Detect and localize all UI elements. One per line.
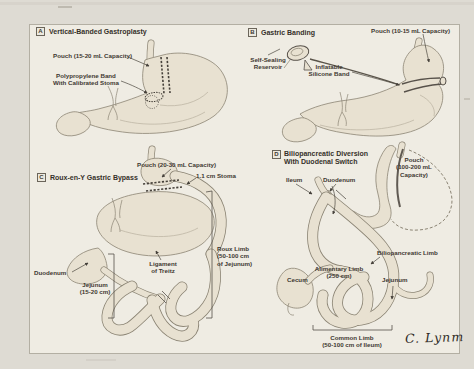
- duodenum-c: [67, 248, 107, 284]
- panel-d-tag: D: [272, 150, 281, 159]
- label-pouch-b: Pouch (10-15 mL Capacity): [371, 27, 450, 34]
- label-alimentary-limb: Alimentary Limb (250 cm): [310, 265, 368, 280]
- panel-c-title: Roux-en-Y Gastric Bypass: [50, 174, 138, 182]
- label-duodenum-c: Duodenum: [34, 269, 66, 276]
- stomach-b: [300, 45, 444, 136]
- panel-c-tag: C: [37, 173, 46, 182]
- label-biliopancreatic-limb: Biliopancreatic Limb: [377, 249, 438, 256]
- label-pouch-a: Pouch (15-20 mL Capacity): [53, 52, 132, 59]
- duodenum-a: [56, 112, 90, 136]
- label-duodenum-d: Duodenum: [323, 176, 355, 183]
- panel-b-title: Gastric Banding: [261, 29, 315, 37]
- panel-d-title: Biliopancreatic Diversion With Duodenal …: [284, 150, 368, 166]
- label-common-limb: Common Limb (50-100 cm of Ileum): [306, 334, 398, 349]
- panel-b-illustration: [268, 34, 446, 142]
- label-cecum-d: Cecum: [287, 276, 308, 283]
- cecum-d: [277, 268, 313, 308]
- panel-a-title: Vertical-Banded Gastroplasty: [49, 28, 147, 36]
- label-band-b: Inflatable Silicone Band: [306, 63, 352, 78]
- label-pouch-d: Pouch (100-200 mL Capacity): [390, 156, 438, 178]
- panel-b-tag: B: [248, 28, 257, 37]
- artist-signature: C. Lynm: [405, 329, 465, 346]
- label-ileum-d: Ileum: [286, 176, 302, 183]
- label-pouch-c: Pouch (20-30 mL Capacity): [137, 161, 216, 168]
- label-jejunum-d: Jejunum: [382, 276, 407, 283]
- panel-a-tag: A: [36, 27, 45, 36]
- label-reservoir-b: Self-Sealing Reservoir: [246, 56, 290, 71]
- label-ligament-of-treitz: Ligament of Treitz: [146, 260, 180, 275]
- duodenum-b: [282, 118, 316, 142]
- label-band-a: Polypropylene Band With Calibrated Stoma: [50, 72, 122, 87]
- scanned-journal-figure: A Vertical-Banded Gastroplasty B Gastric…: [0, 0, 474, 369]
- label-stoma-c: 1.1 cm Stoma: [196, 172, 236, 179]
- bypassed-stomach: [97, 192, 215, 256]
- label-jejunum-c: Jejunum (15-20 cm): [77, 281, 113, 296]
- label-roux-limb: Roux Limb (50-100 cm of Jejunum): [217, 245, 263, 267]
